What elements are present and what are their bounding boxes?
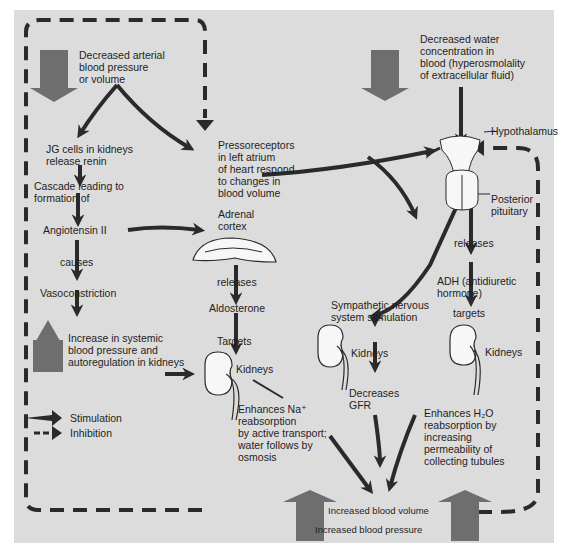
node-kidneys-right: Kidneys (485, 346, 522, 358)
node-adrenal-cortex: Adrenal cortex (218, 208, 254, 232)
label-targets-right: targets (453, 307, 485, 319)
legend-stimulation-icon (25, 410, 62, 426)
node-posterior-pituitary: Posterior pituitary (491, 193, 533, 217)
adrenal-gland-icon (193, 238, 276, 262)
node-kidneys-middle: Kidneys (351, 347, 388, 359)
hypothalamus-pituitary-icon (426, 136, 480, 210)
node-cascade: Cascade leading to formation of (34, 180, 124, 204)
node-adh: ADH (antidiuretic hormone) (437, 275, 516, 299)
label-releases-right: releases (454, 237, 494, 249)
kidney-icon-middle (318, 325, 348, 390)
node-decreased-water: Decreased water concentration in blood (… (420, 33, 525, 81)
node-increased-volume: Increased blood volume (328, 505, 429, 516)
node-decreased-bp: Decreased arterial blood pressure or vol… (79, 49, 165, 85)
kidney-icon-right (450, 325, 480, 395)
node-increase-systemic: Increase in systemic blood pressure and … (68, 332, 184, 368)
node-jg-cells: JG cells in kidneys release renin (46, 143, 133, 167)
big-arrow-down-right (361, 50, 409, 101)
big-arrow-up-bottom-right (438, 490, 492, 541)
legend-inhibition-icon (34, 426, 62, 440)
node-sympathetic: Sympathetic nervous system stimulation (331, 299, 429, 323)
node-hypothalamus: Hypothalamus (491, 125, 558, 137)
legend-stimulation-label: Stimulation (70, 412, 122, 424)
kidneys-left-leader (253, 380, 283, 398)
label-causes: causes (60, 256, 93, 268)
node-decreases-gfr: Decreases GFR (349, 387, 399, 411)
label-releases-left: releases (217, 276, 257, 288)
kidney-icon-left (205, 352, 239, 420)
label-targets-left: Targets (217, 335, 251, 347)
big-arrow-up-left-shaft (33, 340, 63, 372)
big-arrow-down-left (30, 50, 78, 102)
node-enhances-na: Enhances Na⁺ reabsorption by active tran… (238, 403, 327, 463)
legend-inhibition-label: Inhibition (70, 427, 112, 439)
node-angiotensin: Angiotensin II (43, 224, 107, 236)
node-vasoconstriction: Vasoconstriction (40, 287, 116, 299)
node-enhances-h2o: Enhances H₂O reabsorption by increasing … (424, 407, 505, 467)
node-aldosterone: Aldosterone (209, 302, 265, 314)
node-increased-pressure: Increased blood pressure (315, 524, 422, 535)
node-pressoreceptors: Pressoreceptors in left atrium of heart … (218, 139, 294, 199)
node-kidneys-left: Kidneys (236, 363, 273, 375)
inhibition-arrowhead-top (196, 120, 214, 131)
